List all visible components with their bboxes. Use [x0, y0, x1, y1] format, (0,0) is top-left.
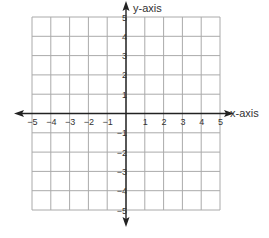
x-tick-label: −5	[27, 117, 37, 127]
x-tick-label: −2	[84, 117, 94, 127]
y-tick-label: −5	[117, 206, 127, 216]
y-tick-label: 5	[122, 13, 127, 23]
y-tick-label: −1	[117, 128, 127, 138]
x-tick-label: 3	[180, 117, 185, 127]
x-tick-label: 1	[143, 117, 148, 127]
coordinate-plane: −5−4−3−2−112345 −5−4−3−2−112345 x-axis y…	[0, 0, 269, 238]
y-tick-label: −2	[117, 148, 127, 158]
x-tick-labels: −5−4−3−2−112345	[27, 117, 223, 127]
y-tick-label: 4	[122, 32, 127, 42]
x-tick-label: −1	[103, 117, 113, 127]
x-axis-label: x-axis	[230, 107, 259, 119]
x-tick-label: 2	[162, 117, 167, 127]
x-tick-label: 4	[199, 117, 204, 127]
y-tick-label: 3	[122, 51, 127, 61]
y-tick-label: 1	[122, 90, 127, 100]
y-tick-label: −4	[117, 186, 127, 196]
y-tick-label: 2	[122, 70, 127, 80]
x-tick-label: 5	[218, 117, 223, 127]
y-tick-label: −3	[117, 167, 127, 177]
x-tick-label: −3	[65, 117, 75, 127]
x-tick-label: −4	[46, 117, 56, 127]
y-axis-label: y-axis	[133, 2, 162, 14]
